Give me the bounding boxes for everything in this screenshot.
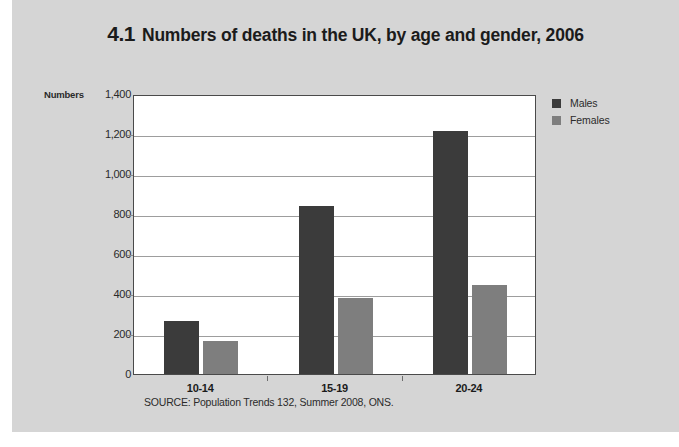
x-axis-tick-label: 15-19 bbox=[295, 382, 375, 394]
y-axis-tick-label: 800 bbox=[75, 208, 131, 220]
source-note: SOURCE: Population Trends 132, Summer 20… bbox=[144, 396, 394, 408]
bar-females-15-19 bbox=[338, 298, 373, 374]
bar-males-20-24 bbox=[433, 131, 468, 374]
y-axis-tick-label: 1,400 bbox=[75, 88, 131, 100]
bar-males-15-19 bbox=[299, 206, 334, 374]
y-axis-tick-labels: 02004006008001,0001,2001,400 bbox=[69, 95, 131, 375]
legend-swatch-icon bbox=[552, 116, 561, 125]
y-axis-tick-label: 600 bbox=[75, 248, 131, 260]
gridline bbox=[134, 136, 535, 137]
y-axis-tick-label: 0 bbox=[75, 368, 131, 380]
bar-females-20-24 bbox=[472, 285, 507, 374]
gridline bbox=[134, 216, 535, 217]
bar-males-10-14 bbox=[164, 321, 199, 374]
bar-chart: Numbers 02004006008001,0001,2001,400 10-… bbox=[12, 0, 679, 432]
gridline bbox=[134, 176, 535, 177]
legend-swatch-icon bbox=[552, 99, 561, 108]
x-axis-tick-label: 20-24 bbox=[429, 382, 509, 394]
legend-item-females: Females bbox=[552, 114, 610, 126]
y-axis-tick-label: 1,000 bbox=[75, 168, 131, 180]
y-axis-tick-label: 400 bbox=[75, 288, 131, 300]
gridline bbox=[134, 256, 535, 257]
legend-item-males: Males bbox=[552, 97, 610, 109]
y-axis-tick-label: 1,200 bbox=[75, 128, 131, 140]
legend-label: Males bbox=[570, 97, 598, 109]
chart-legend: MalesFemales bbox=[552, 97, 610, 131]
x-axis-tick-mark bbox=[402, 376, 403, 381]
plot-area bbox=[133, 95, 536, 375]
bar-females-10-14 bbox=[203, 341, 238, 374]
legend-label: Females bbox=[570, 114, 610, 126]
x-axis-tick-label: 10-14 bbox=[160, 382, 240, 394]
x-axis-tick-mark bbox=[267, 376, 268, 381]
y-axis-tick-label: 200 bbox=[75, 328, 131, 340]
figure-page: 4.1Numbers of deaths in the UK, by age a… bbox=[12, 0, 679, 432]
